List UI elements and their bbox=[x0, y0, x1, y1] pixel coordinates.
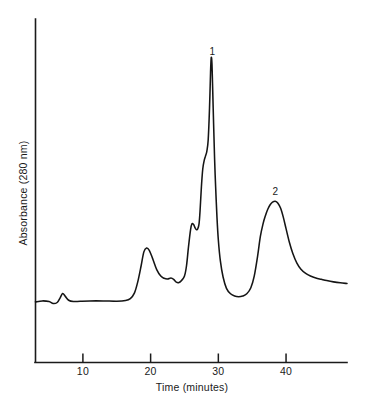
y-axis-title: Absorbance (280 nm) bbox=[17, 141, 29, 246]
peak-label-1: 1 bbox=[209, 46, 215, 57]
x-tick-label: 30 bbox=[212, 365, 224, 377]
chromatogram-svg: 10203040 12 Time (minutes) Absorbance (2… bbox=[0, 0, 366, 413]
x-tick-label: 10 bbox=[77, 365, 89, 377]
chromatogram-chart: 10203040 12 Time (minutes) Absorbance (2… bbox=[0, 0, 366, 413]
absorbance-trace bbox=[36, 57, 348, 303]
peak-label-group: 12 bbox=[209, 46, 278, 197]
x-tick-label: 20 bbox=[145, 365, 157, 377]
x-tick-group: 10203040 bbox=[77, 354, 292, 377]
peak-label-2: 2 bbox=[272, 186, 278, 197]
x-tick-label: 40 bbox=[280, 365, 292, 377]
x-axis-title: Time (minutes) bbox=[156, 381, 228, 393]
